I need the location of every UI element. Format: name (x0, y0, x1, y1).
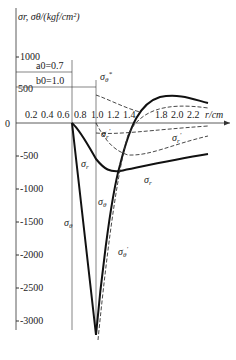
svg-text:-2500: -2500 (20, 282, 43, 293)
svg-text:0.2: 0.2 (25, 109, 38, 120)
svg-text:b0=1.0: b0=1.0 (36, 75, 64, 86)
svg-text:1.4: 1.4 (123, 109, 136, 120)
svg-text:-1500: -1500 (20, 216, 43, 227)
y-ticks: 1000 500 0 -500 -1000 -1500 -2000 -2500 … (5, 51, 43, 326)
stress-chart: σr, σθ/(kgf/cm²) 1000 500 0 -500 -1000 -… (0, 0, 236, 360)
sigma-r-curve (72, 123, 208, 171)
svg-text:-1000: -1000 (20, 183, 43, 194)
curves (72, 95, 208, 340)
svg-text:r/cm: r/cm (205, 109, 223, 120)
svg-text:0.8: 0.8 (74, 109, 87, 120)
svg-text:-500: -500 (20, 150, 38, 161)
svg-text:-2000: -2000 (20, 249, 43, 260)
x-axis-arrow-icon (224, 121, 230, 126)
svg-text:2.0: 2.0 (171, 109, 184, 120)
svg-text:σr: σr (144, 174, 152, 187)
svg-text:0: 0 (5, 118, 10, 129)
svg-text:-3000: -3000 (20, 315, 43, 326)
svg-text:σr': σr' (101, 127, 111, 141)
svg-text:1.0: 1.0 (91, 109, 104, 120)
svg-text:0.4: 0.4 (41, 109, 54, 120)
sigma-r-prime-upper-curve (96, 126, 208, 133)
svg-text:2.2: 2.2 (187, 109, 200, 120)
svg-text:σθ: σθ (64, 217, 73, 230)
svg-text:σr: σr (81, 158, 89, 171)
svg-text:1.2: 1.2 (107, 109, 120, 120)
svg-text:a0=0.7: a0=0.7 (36, 60, 64, 71)
svg-text:σθ': σθ' (118, 245, 128, 259)
y-axis-label: σr, σθ/(kgf/cm²) (18, 11, 80, 23)
svg-text:σθ: σθ (98, 196, 107, 209)
sigma-theta-prime-curve (98, 106, 208, 340)
svg-text:500: 500 (18, 83, 33, 94)
sigma-r-prime-curve (96, 123, 208, 155)
svg-text:1.8: 1.8 (155, 109, 168, 120)
svg-text:σθ*: σθ* (100, 70, 112, 84)
svg-text:0.6: 0.6 (57, 109, 70, 120)
svg-text:σr': σr' (172, 131, 182, 145)
x-ticks: 0.2 0.4 0.6 0.8 1.0 1.2 1.4 1.8 2.0 2.2 … (25, 109, 223, 120)
curve-labels: σθ* σr' σr' σr σr σθ σθ σθ' (64, 70, 182, 259)
